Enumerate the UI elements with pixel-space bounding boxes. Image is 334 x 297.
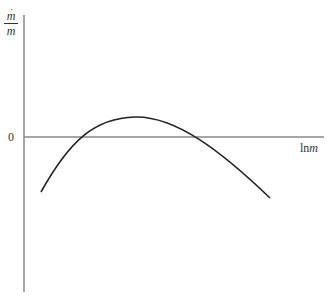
x-label-ln: ln (300, 141, 309, 155)
growth-rate-curve (41, 117, 270, 198)
chart-canvas (0, 0, 334, 297)
x-label-var: m (309, 141, 318, 155)
y-label-denominator: m (7, 24, 16, 38)
x-axis-label: lnm (300, 141, 318, 156)
y-tick-zero: 0 (8, 130, 14, 145)
dot-accent: ˙ (10, 7, 13, 19)
y-axis-label: ˙ m m (4, 10, 18, 37)
